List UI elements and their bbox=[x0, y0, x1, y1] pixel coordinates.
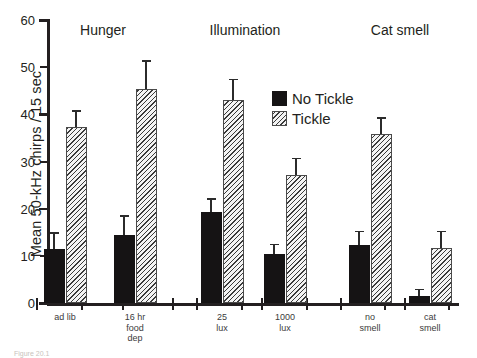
x-axis-line bbox=[47, 303, 459, 306]
x-tick-0 bbox=[36, 298, 38, 310]
chart-legend: No Tickle Tickle bbox=[272, 90, 354, 130]
bar-no-tickle-2 bbox=[201, 212, 222, 303]
error-bar-stem-0-3 bbox=[273, 245, 275, 253]
error-bar-cap-0-5 bbox=[415, 289, 424, 291]
x-axis-label-3: 1000 lux bbox=[275, 312, 295, 333]
group-header-hunger: Hunger bbox=[80, 22, 126, 38]
x-tick-10 bbox=[404, 298, 406, 310]
error-bar-stem-0-1 bbox=[123, 217, 125, 235]
group-header-illumination: Illumination bbox=[210, 22, 281, 38]
error-bar-cap-0-1 bbox=[120, 215, 129, 217]
y-tick-label-50: 50 bbox=[21, 61, 35, 74]
legend-item-no-tickle: No Tickle bbox=[272, 90, 354, 107]
error-bar-stem-0-0 bbox=[53, 234, 55, 249]
y-tick-label-60: 60 bbox=[21, 14, 35, 27]
bar-tickle-3 bbox=[286, 175, 307, 303]
error-bar-stem-1-4 bbox=[380, 119, 382, 135]
bar-no-tickle-1 bbox=[114, 235, 135, 303]
error-bar-cap-1-1 bbox=[142, 60, 151, 62]
x-tick-8 bbox=[340, 298, 342, 310]
y-tick-label-10: 10 bbox=[21, 249, 35, 262]
bar-tickle-0 bbox=[66, 127, 87, 303]
error-bar-stem-1-3 bbox=[295, 159, 297, 175]
plot-area: 0102030405060 bbox=[47, 20, 459, 305]
x-axis-label-1: 16 hr food dep bbox=[125, 312, 146, 344]
error-bar-stem-1-2 bbox=[232, 80, 234, 100]
bar-tickle-2 bbox=[223, 100, 244, 303]
figure-panel: Mean 50-kHz chirps / 15 sec 010203040506… bbox=[0, 0, 477, 358]
y-tick-50 bbox=[40, 66, 49, 68]
y-tick-30 bbox=[40, 161, 49, 163]
error-bar-stem-1-1 bbox=[145, 62, 147, 89]
legend-swatch-solid-icon bbox=[272, 91, 287, 106]
legend-label-no-tickle: No Tickle bbox=[292, 90, 354, 107]
legend-label-tickle: Tickle bbox=[292, 110, 331, 127]
error-bar-stem-1-5 bbox=[440, 232, 442, 248]
legend-swatch-hatch-icon bbox=[272, 111, 287, 126]
y-tick-40 bbox=[39, 113, 50, 116]
y-tick-20 bbox=[39, 208, 50, 211]
error-bar-cap-1-4 bbox=[377, 117, 386, 119]
y-tick-60 bbox=[39, 19, 50, 22]
error-bar-cap-0-0 bbox=[50, 232, 59, 234]
bar-tickle-4 bbox=[371, 134, 392, 303]
x-tick-3 bbox=[172, 298, 174, 310]
x-axis-label-2: 25 lux bbox=[216, 312, 228, 333]
bar-no-tickle-4 bbox=[349, 245, 370, 303]
bar-tickle-1 bbox=[136, 89, 157, 303]
legend-item-tickle: Tickle bbox=[272, 110, 354, 127]
y-tick-label-0: 0 bbox=[28, 297, 35, 310]
error-bar-cap-1-3 bbox=[292, 158, 301, 160]
error-bar-cap-1-5 bbox=[437, 231, 446, 233]
error-bar-stem-1-0 bbox=[75, 112, 77, 128]
y-tick-label-30: 30 bbox=[21, 155, 35, 168]
figure-caption: Figure 20.1 bbox=[14, 350, 49, 357]
y-tick-label-40: 40 bbox=[21, 108, 35, 121]
error-bar-cap-1-2 bbox=[229, 79, 238, 81]
error-bar-cap-0-4 bbox=[355, 231, 364, 233]
error-bar-cap-1-0 bbox=[72, 110, 81, 112]
x-axis-label-5: cat smell bbox=[419, 312, 440, 333]
error-bar-stem-0-2 bbox=[210, 200, 212, 212]
y-tick-label-20: 20 bbox=[21, 202, 35, 215]
x-axis-label-4: no smell bbox=[359, 312, 380, 333]
bar-no-tickle-0 bbox=[44, 249, 65, 303]
x-tick-4 bbox=[196, 298, 198, 310]
bar-tickle-5 bbox=[431, 248, 452, 303]
x-axis-label-0: ad lib bbox=[54, 312, 76, 323]
error-bar-stem-0-4 bbox=[358, 232, 360, 244]
error-bar-cap-0-2 bbox=[207, 198, 216, 200]
bar-no-tickle-3 bbox=[264, 254, 285, 303]
bar-no-tickle-5 bbox=[409, 296, 430, 303]
group-header-cat-smell: Cat smell bbox=[371, 22, 429, 38]
error-bar-cap-0-3 bbox=[270, 244, 279, 246]
error-bar-stem-0-5 bbox=[418, 290, 420, 296]
